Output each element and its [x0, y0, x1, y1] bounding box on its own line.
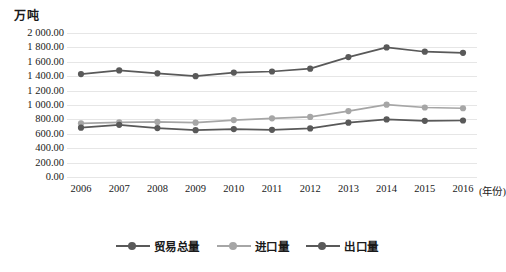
- y-axis-tick-label: 1 400.00: [2, 71, 64, 81]
- data-point-marker: [78, 71, 84, 77]
- data-point-marker: [269, 68, 275, 74]
- data-point-marker: [116, 67, 122, 73]
- y-axis-tick-label: 800.00: [2, 114, 64, 124]
- legend-marker-icon: [229, 242, 237, 250]
- x-axis-tick-label: 2013: [338, 183, 359, 194]
- legend-label: 进口量: [255, 238, 290, 254]
- x-axis-tick-label: 2014: [376, 183, 397, 194]
- x-axis-tick-label: 2016: [453, 183, 474, 194]
- data-point-marker: [307, 125, 313, 131]
- legend-item[interactable]: 贸易总量: [116, 238, 200, 254]
- legend-item[interactable]: 出口量: [306, 238, 379, 254]
- x-axis: 2006200720082009201020112012201320142015…: [67, 183, 487, 203]
- x-axis-tick-label: 2009: [185, 183, 206, 194]
- chart-legend: 贸易总量进口量出口量: [0, 238, 494, 254]
- x-axis-tick-label: 2010: [223, 183, 244, 194]
- legend-label: 出口量: [344, 238, 379, 254]
- legend-swatch-icon: [306, 241, 340, 251]
- data-point-marker: [460, 117, 466, 123]
- data-point-marker: [193, 120, 199, 126]
- x-axis-tick-label: 2011: [262, 183, 283, 194]
- gridline: [67, 177, 477, 178]
- data-point-marker: [231, 126, 237, 132]
- legend-marker-icon: [128, 242, 136, 250]
- data-point-marker: [460, 50, 466, 56]
- data-point-marker: [116, 122, 122, 128]
- legend-item[interactable]: 进口量: [217, 238, 290, 254]
- x-axis-tick-label: 2006: [71, 183, 92, 194]
- x-axis-tick-label: 2012: [300, 183, 321, 194]
- data-point-marker: [193, 73, 199, 79]
- y-axis-tick-label: 2 000.00: [2, 28, 64, 38]
- data-point-marker: [384, 116, 390, 122]
- data-point-marker: [154, 119, 160, 125]
- y-axis-tick-label: 200.00: [2, 158, 64, 168]
- data-point-marker: [422, 118, 428, 124]
- y-axis-tick-label: 1 600.00: [2, 57, 64, 67]
- y-axis-tick-label: 0.00: [2, 172, 64, 182]
- y-axis-tick-label: 600.00: [2, 129, 64, 139]
- legend-marker-icon: [318, 242, 326, 250]
- series-1: [78, 44, 466, 79]
- series-2: [78, 102, 466, 127]
- data-point-marker: [269, 127, 275, 133]
- legend-label: 贸易总量: [154, 238, 200, 254]
- data-point-marker: [154, 125, 160, 131]
- x-axis-tick-label: 2007: [109, 183, 130, 194]
- data-point-marker: [422, 104, 428, 110]
- data-point-marker: [307, 66, 313, 72]
- data-point-marker: [384, 44, 390, 50]
- data-point-marker: [231, 70, 237, 76]
- data-point-marker: [231, 117, 237, 123]
- y-axis-tick-label: 1 200.00: [2, 86, 64, 96]
- x-axis-tick-label: 2008: [147, 183, 168, 194]
- data-point-marker: [345, 108, 351, 114]
- legend-swatch-icon: [217, 241, 251, 251]
- data-point-marker: [307, 114, 313, 120]
- data-point-marker: [345, 120, 351, 126]
- y-axis-tick-label: 1 000.00: [2, 100, 64, 110]
- data-point-marker: [422, 49, 428, 55]
- data-point-marker: [193, 127, 199, 133]
- series-layer: [67, 33, 477, 177]
- y-axis-tick-label: 400.00: [2, 143, 64, 153]
- data-point-marker: [154, 70, 160, 76]
- x-axis-unit-label: (年份): [479, 183, 506, 198]
- x-axis-tick-label: 2015: [414, 183, 435, 194]
- data-point-marker: [460, 105, 466, 111]
- data-point-marker: [345, 54, 351, 60]
- data-point-marker: [269, 115, 275, 121]
- plot-area: [67, 33, 477, 177]
- y-axis: 2 000.001 800.001 600.001 400.001 200.00…: [0, 0, 64, 272]
- y-axis-tick-label: 1 800.00: [2, 42, 64, 52]
- data-point-marker: [384, 102, 390, 108]
- legend-swatch-icon: [116, 241, 150, 251]
- data-point-marker: [78, 125, 84, 131]
